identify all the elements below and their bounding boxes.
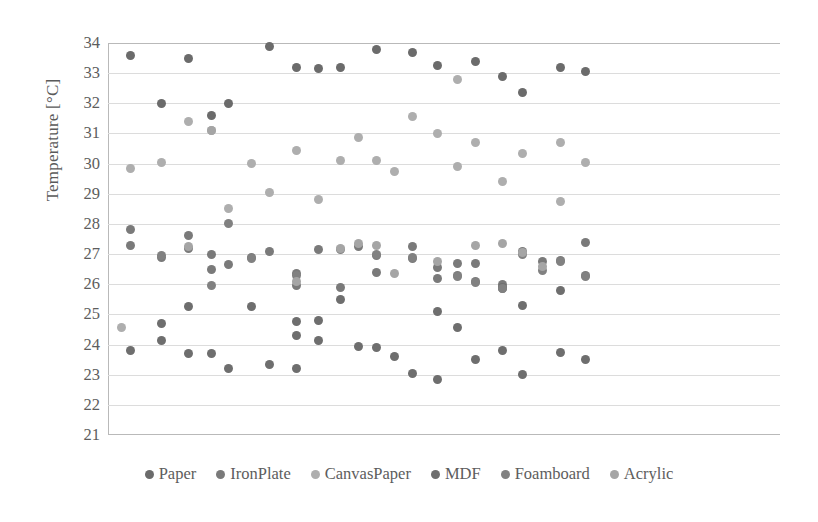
- data-point: [408, 253, 417, 262]
- legend-item-label: Foamboard: [515, 466, 590, 483]
- data-point: [390, 167, 399, 176]
- data-point: [157, 319, 166, 328]
- y-axis-tick-label: 24: [60, 337, 100, 354]
- data-point: [408, 242, 417, 251]
- data-point: [292, 317, 301, 326]
- y-axis-tick-label: 30: [60, 156, 100, 173]
- data-point: [581, 158, 590, 167]
- data-point: [207, 111, 216, 120]
- legend-marker-icon: [610, 470, 619, 479]
- legend-item-canvaspaper[interactable]: CanvasPaper: [311, 466, 411, 483]
- legend-item-label: Acrylic: [624, 466, 673, 483]
- data-point: [538, 262, 547, 271]
- data-point: [453, 162, 462, 171]
- data-point: [336, 63, 345, 72]
- data-point: [556, 257, 565, 266]
- data-point: [247, 302, 256, 311]
- data-point: [157, 336, 166, 345]
- data-point: [292, 364, 301, 373]
- data-point: [184, 349, 193, 358]
- legend-marker-icon: [145, 470, 154, 479]
- data-point: [265, 42, 274, 51]
- data-point: [292, 331, 301, 340]
- legend-item-ironplate[interactable]: IronPlate: [216, 466, 290, 483]
- data-point: [247, 254, 256, 263]
- data-point: [581, 238, 590, 247]
- y-axis-tick-label: 32: [60, 95, 100, 112]
- gridline: [108, 194, 780, 195]
- legend-item-foamboard[interactable]: Foamboard: [501, 466, 590, 483]
- data-point: [314, 336, 323, 345]
- legend-item-acrylic[interactable]: Acrylic: [610, 466, 673, 483]
- data-point: [314, 316, 323, 325]
- data-point: [471, 57, 480, 66]
- y-axis-tick-label: 34: [60, 35, 100, 52]
- data-point: [207, 250, 216, 259]
- data-point: [126, 51, 135, 60]
- data-point: [354, 342, 363, 351]
- chart-legend: PaperIronPlateCanvasPaperMDFFoamboardAcr…: [0, 466, 818, 483]
- data-point: [408, 112, 417, 121]
- data-point: [372, 268, 381, 277]
- gridline: [108, 405, 780, 406]
- axis-line-bottom: [108, 434, 780, 435]
- data-point: [453, 75, 462, 84]
- data-point: [372, 45, 381, 54]
- y-axis-tick-label: 23: [60, 367, 100, 384]
- y-axis-tick-label: 31: [60, 125, 100, 142]
- y-axis-tick-label: 22: [60, 397, 100, 414]
- data-point: [433, 274, 442, 283]
- gridline: [108, 224, 780, 225]
- legend-marker-icon: [501, 470, 510, 479]
- data-point: [453, 259, 462, 268]
- gridline: [108, 375, 780, 376]
- data-point: [471, 138, 480, 147]
- y-axis-tick-label: 33: [60, 65, 100, 82]
- data-point: [265, 360, 274, 369]
- data-point: [314, 195, 323, 204]
- data-point: [314, 64, 323, 73]
- data-point: [184, 54, 193, 63]
- data-point: [556, 138, 565, 147]
- y-axis-tick-label: 21: [60, 427, 100, 444]
- data-point: [471, 259, 480, 268]
- data-point: [372, 250, 381, 259]
- legend-item-mdf[interactable]: MDF: [431, 466, 481, 483]
- data-point: [207, 265, 216, 274]
- data-point: [518, 248, 527, 257]
- data-point: [372, 343, 381, 352]
- scatter-chart: Temperature [°C] 34333231302928272625242…: [0, 0, 818, 522]
- data-point: [518, 88, 527, 97]
- data-point: [433, 307, 442, 316]
- data-point: [433, 61, 442, 70]
- y-axis-tick-labels: 3433323130292827262524232221: [58, 43, 100, 435]
- data-point: [498, 346, 507, 355]
- data-point: [336, 244, 345, 253]
- data-point: [184, 231, 193, 240]
- y-axis-tick-label: 25: [60, 306, 100, 323]
- data-point: [207, 349, 216, 358]
- data-point: [498, 72, 507, 81]
- gridline: [108, 73, 780, 74]
- data-point: [518, 370, 527, 379]
- data-point: [556, 63, 565, 72]
- gridline-top: [108, 43, 780, 44]
- data-point: [433, 129, 442, 138]
- y-axis-tick-label: 28: [60, 216, 100, 233]
- plot-area: [108, 43, 780, 435]
- data-point: [184, 302, 193, 311]
- legend-item-label: IronPlate: [230, 466, 290, 483]
- data-point: [126, 241, 135, 250]
- data-point: [556, 348, 565, 357]
- data-point: [117, 323, 126, 332]
- data-point: [390, 269, 399, 278]
- legend-item-paper[interactable]: Paper: [145, 466, 197, 483]
- data-point: [157, 158, 166, 167]
- data-point: [126, 164, 135, 173]
- data-point: [292, 277, 301, 286]
- data-point: [354, 133, 363, 142]
- legend-marker-icon: [431, 470, 440, 479]
- data-point: [408, 369, 417, 378]
- legend-item-label: MDF: [445, 466, 481, 483]
- data-point: [336, 295, 345, 304]
